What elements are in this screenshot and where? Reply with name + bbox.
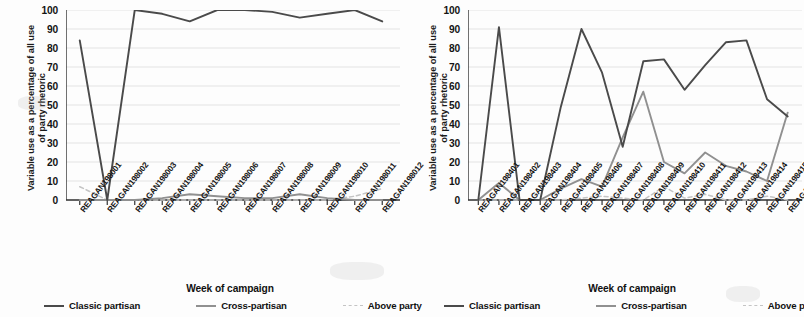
legend-swatch-icon (596, 305, 616, 307)
y-axis-tick-label: 30 (32, 138, 58, 149)
legend-item-classic-partisan[interactable]: Classic partisan (444, 300, 540, 311)
legend-swatch-icon (343, 305, 363, 306)
y-axis-tick-label: 20 (32, 157, 58, 168)
chart-panel-reagan-1984: Variable use as a percentage of all use … (402, 0, 804, 317)
y-axis-tick-label: 80 (32, 43, 58, 54)
x-axis-title-left: Week of campaign (120, 283, 340, 294)
y-axis-tick-label: 70 (32, 62, 58, 73)
legend-item-classic-partisan[interactable]: Classic partisan (44, 300, 140, 311)
legend-label: Cross-partisan (621, 300, 687, 311)
y-axis-tick-label: 40 (32, 119, 58, 130)
y-axis-tick-label: 20 (434, 157, 460, 168)
y-axis-tick-label: 40 (434, 119, 460, 130)
legend-label: Classic partisan (469, 300, 540, 311)
y-axis-tick-label: 80 (434, 43, 460, 54)
legend-left: Classic partisanCross-partisanAbove part… (44, 300, 422, 311)
legend-item-above-party[interactable]: Above party (743, 300, 804, 311)
x-axis-title-right: Week of campaign (522, 283, 742, 294)
legend-swatch-icon (743, 305, 763, 306)
legend-swatch-icon (444, 305, 464, 307)
y-axis-tick-label: 60 (434, 81, 460, 92)
legend-swatch-icon (196, 305, 216, 307)
y-axis-tick-label: 50 (32, 100, 58, 111)
y-axis-tick-label: 100 (434, 5, 460, 16)
legend-label: Classic partisan (69, 300, 140, 311)
y-axis-tick-label: 100 (32, 5, 58, 16)
y-axis-tick-label: 90 (434, 24, 460, 35)
legend-label: Above party (768, 300, 804, 311)
y-axis-tick-label: 60 (32, 81, 58, 92)
y-axis-tick-label: 10 (434, 176, 460, 187)
legend-item-cross-partisan[interactable]: Cross-partisan (596, 300, 687, 311)
y-axis-tick-label: 70 (434, 62, 460, 73)
legend-label: Cross-partisan (221, 300, 287, 311)
legend-item-cross-partisan[interactable]: Cross-partisan (196, 300, 287, 311)
y-axis-tick-label: 30 (434, 138, 460, 149)
legend-swatch-icon (44, 305, 64, 307)
legend-right: Classic partisanCross-partisanAbove part… (444, 300, 804, 311)
y-axis-tick-label: 90 (32, 24, 58, 35)
y-axis-tick-label: 0 (434, 195, 460, 206)
y-axis-tick-label: 10 (32, 176, 58, 187)
chart-panel-reagan-1980: Variable use as a percentage of all use … (0, 0, 402, 317)
y-axis-tick-label: 0 (32, 195, 58, 206)
y-axis-tick-label: 50 (434, 100, 460, 111)
figure-root: Variable use as a percentage of all use … (0, 0, 804, 317)
